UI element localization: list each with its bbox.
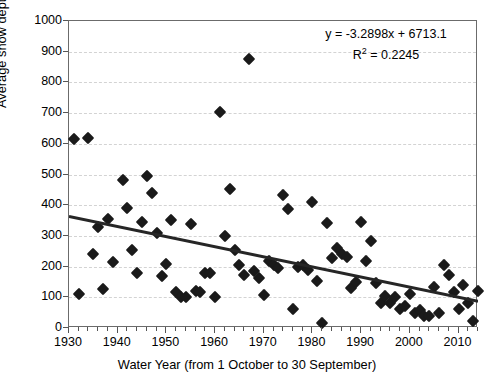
x-major-tick-mark: [263, 327, 264, 333]
x-minor-tick-mark: [195, 327, 196, 331]
x-tick-label: 1980: [291, 336, 331, 349]
data-point: [87, 248, 100, 261]
y-tick-label: 100: [28, 290, 62, 302]
x-minor-tick-mark: [253, 327, 254, 331]
y-tick-mark: [63, 112, 68, 113]
gridline: [69, 236, 476, 237]
x-minor-tick-mark: [224, 327, 225, 331]
data-point: [150, 226, 163, 239]
data-point: [467, 315, 480, 328]
x-minor-tick-mark: [302, 327, 303, 331]
data-point: [355, 216, 368, 229]
x-minor-tick-mark: [97, 327, 98, 331]
data-point: [126, 243, 139, 256]
x-minor-tick-mark: [321, 327, 322, 331]
y-tick-label: 500: [28, 168, 62, 180]
x-minor-tick-mark: [341, 327, 342, 331]
data-point: [116, 174, 129, 187]
y-tick-mark: [63, 174, 68, 175]
data-point: [145, 187, 158, 200]
y-tick-label: 400: [28, 198, 62, 210]
x-minor-tick-mark: [331, 327, 332, 331]
data-point: [121, 202, 134, 215]
x-minor-tick-mark: [467, 327, 468, 331]
data-point: [457, 279, 470, 292]
x-tick-label: 1950: [145, 336, 185, 349]
data-point: [82, 132, 95, 145]
x-minor-tick-mark: [438, 327, 439, 331]
x-minor-tick-mark: [204, 327, 205, 331]
data-point: [311, 275, 324, 288]
x-minor-tick-mark: [282, 327, 283, 331]
x-tick-label: 1930: [48, 336, 88, 349]
x-major-tick-mark: [458, 327, 459, 333]
y-tick-mark: [63, 235, 68, 236]
gridline: [69, 144, 476, 145]
data-point: [160, 257, 173, 270]
x-minor-tick-mark: [185, 327, 186, 331]
data-point: [136, 216, 149, 229]
x-major-tick-mark: [360, 327, 361, 333]
data-point: [365, 235, 378, 248]
data-point: [92, 220, 105, 233]
y-tick-mark: [63, 296, 68, 297]
x-minor-tick-mark: [380, 327, 381, 331]
x-major-tick-mark: [311, 327, 312, 333]
data-point: [214, 105, 227, 118]
data-point: [306, 196, 319, 209]
x-minor-tick-mark: [350, 327, 351, 331]
x-minor-tick-mark: [292, 327, 293, 331]
y-tick-label: 300: [28, 229, 62, 241]
data-point: [141, 170, 154, 183]
data-point: [184, 218, 197, 231]
x-minor-tick-mark: [78, 327, 79, 331]
data-point: [102, 213, 115, 226]
x-minor-tick-mark: [477, 327, 478, 331]
x-tick-label: 1940: [97, 336, 137, 349]
data-point: [165, 214, 178, 227]
y-tick-mark: [63, 266, 68, 267]
data-point: [287, 303, 300, 316]
x-major-tick-mark: [165, 327, 166, 333]
y-tick-label: 700: [28, 106, 62, 118]
x-minor-tick-mark: [243, 327, 244, 331]
scatter-chart: Average snow depth (mm) 0100200300400500…: [0, 0, 494, 382]
x-minor-tick-mark: [234, 327, 235, 331]
x-minor-tick-mark: [370, 327, 371, 331]
data-point: [321, 217, 334, 230]
x-minor-tick-mark: [399, 327, 400, 331]
gridline: [69, 175, 476, 176]
data-point: [223, 183, 236, 196]
data-point: [228, 243, 241, 256]
x-minor-tick-mark: [126, 327, 127, 331]
y-tick-label: 900: [28, 45, 62, 57]
data-point: [369, 277, 382, 290]
regression-equation: y = -3.2898x + 6713.1: [306, 26, 466, 43]
x-major-tick-mark: [117, 327, 118, 333]
y-tick-label: 0: [28, 321, 62, 333]
data-point: [428, 281, 441, 294]
data-point: [316, 317, 329, 330]
x-tick-label: 1970: [243, 336, 283, 349]
y-tick-label: 600: [28, 137, 62, 149]
regression-annotation: y = -3.2898x + 6713.1 R2 = 0.2245: [306, 26, 466, 64]
r-squared-label: R: [353, 48, 362, 62]
data-point: [277, 189, 290, 202]
x-minor-tick-mark: [107, 327, 108, 331]
x-minor-tick-mark: [87, 327, 88, 331]
x-minor-tick-mark: [428, 327, 429, 331]
y-tick-mark: [63, 204, 68, 205]
data-point: [209, 291, 222, 304]
data-point: [472, 285, 485, 298]
gridline: [69, 297, 476, 298]
x-major-tick-mark: [214, 327, 215, 333]
data-point: [72, 288, 85, 301]
x-minor-tick-mark: [273, 327, 274, 331]
data-point: [218, 230, 231, 243]
y-tick-mark: [63, 51, 68, 52]
x-minor-tick-mark: [419, 327, 420, 331]
x-tick-label: 1990: [340, 336, 380, 349]
x-minor-tick-mark: [156, 327, 157, 331]
data-point: [131, 267, 144, 280]
data-point: [97, 282, 110, 295]
